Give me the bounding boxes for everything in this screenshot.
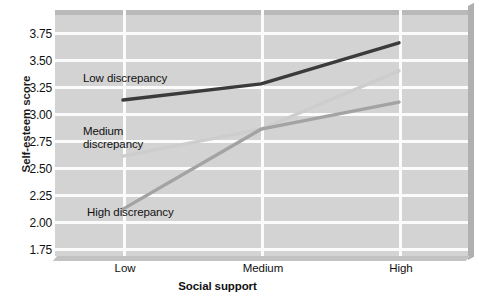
x-tick-label-medium: Medium (218, 262, 308, 274)
x-tick-label-low: Low (80, 262, 170, 274)
y-tick-label: 2.50 (10, 163, 52, 175)
y-tick-label: 2.75 (10, 136, 52, 148)
annotation-low-discrepancy: Low discrepancy (83, 72, 167, 85)
y-tick-label: 1.75 (10, 244, 52, 256)
y-tick-label: 3.50 (10, 55, 52, 67)
y-tick-label: 2.00 (10, 217, 52, 229)
chart-figure: Self-esteem score 3.75 3.50 3.25 3.00 2.… (0, 0, 479, 307)
panel-bottom-bevel (53, 256, 470, 261)
annotation-medium-discrepancy: Medium discrepancy (83, 125, 143, 151)
y-tick-label: 3.75 (10, 28, 52, 40)
y-tick-label: 2.25 (10, 190, 52, 202)
y-tick-label: 3.00 (10, 109, 52, 121)
plot-area: Low discrepancy Medium discrepancy High … (55, 10, 468, 256)
panel-right-bevel (468, 3, 474, 260)
x-axis-title: Social support (0, 280, 457, 292)
line-high-discrepancy (123, 102, 399, 209)
y-tick-label: 3.25 (10, 82, 52, 94)
annotation-high-discrepancy: High discrepancy (87, 206, 174, 219)
y-axis-tick-labels: 3.75 3.50 3.25 3.00 2.75 2.50 2.25 2.00 … (8, 0, 52, 307)
x-tick-label-high: High (356, 262, 446, 274)
